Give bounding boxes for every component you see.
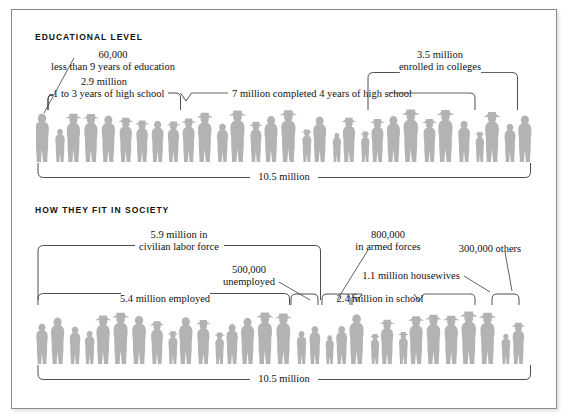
section-title-how-they-fit: HOW THEY FIT IN SOCIETY xyxy=(35,205,169,215)
label-armed-forces-value: 800,000 xyxy=(371,229,405,241)
label-less-than-9-years-value: 60,000 xyxy=(99,49,128,61)
infographic-root: EDUCATIONAL LEVEL 60,000 less than 9 yea… xyxy=(0,0,570,420)
label-completed-4-years-desc: 7 million completed 4 years of high scho… xyxy=(232,88,412,100)
label-unemployed-desc: unemployed xyxy=(223,276,275,288)
label-employed-desc: 5.4 million employed xyxy=(115,293,215,305)
label-unemployed-value: 500,000 xyxy=(232,264,266,276)
label-total-how-they-fit: 10.5 million xyxy=(253,373,314,385)
label-in-school-desc: 2.4 million in school xyxy=(332,293,429,305)
label-less-than-9-years-desc: less than 9 years of education xyxy=(51,61,175,73)
label-civilian-labor-force-value: 5.9 million in xyxy=(151,229,208,241)
label-housewives-desc: 1.1 million housewives xyxy=(362,270,460,282)
pictogram-row-educational-level xyxy=(36,108,534,164)
label-enrolled-colleges-desc: enrolled in colleges xyxy=(399,61,481,73)
label-one-to-three-years-value: 2.9 million xyxy=(81,76,127,88)
label-others-desc: 300,000 others xyxy=(459,243,521,255)
pictogram-row-how-they-fit xyxy=(36,310,534,366)
label-total-educational-level: 10.5 million xyxy=(253,171,314,183)
label-armed-forces-desc: in armed forces xyxy=(355,241,420,253)
label-one-to-three-years-desc: 1 to 3 years of high school xyxy=(53,88,164,100)
label-enrolled-colleges-value: 3.5 million xyxy=(417,49,463,61)
section-title-educational-level: EDUCATIONAL LEVEL xyxy=(35,32,143,42)
label-civilian-labor-force-desc: civilian labor force xyxy=(134,241,224,253)
